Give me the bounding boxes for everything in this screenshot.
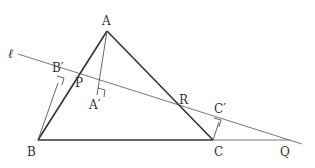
label-p: P — [75, 76, 83, 90]
label-q: Q — [280, 145, 290, 159]
label-b-prime: B′ — [52, 61, 64, 75]
label-b: B — [27, 145, 36, 159]
label-a-prime: A′ — [88, 98, 101, 112]
perpendicular-bb — [38, 83, 58, 140]
label-line-l: ℓ — [8, 46, 14, 61]
perpendicular-cc — [213, 122, 219, 140]
side-ab — [38, 31, 107, 140]
label-c-prime: C′ — [214, 102, 226, 116]
geometry-diagram: A B C Q P R A′ B′ C′ ℓ — [0, 0, 315, 168]
label-a: A — [101, 14, 111, 28]
perpendicular-aa — [97, 31, 107, 95]
side-ac — [107, 31, 213, 140]
right-angle-mark-a — [98, 88, 105, 97]
label-c: C — [214, 145, 223, 159]
label-r: R — [179, 93, 189, 107]
